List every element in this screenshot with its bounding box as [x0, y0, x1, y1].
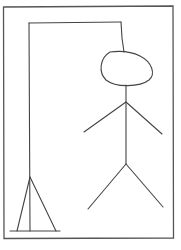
left-arm [84, 102, 126, 132]
gallows-base-left-strut [17, 177, 30, 231]
hangman-svg [0, 0, 181, 250]
left-leg [88, 164, 126, 209]
head [101, 51, 152, 85]
right-leg [126, 164, 163, 207]
right-arm [126, 102, 162, 134]
gallows-post [29, 23, 30, 231]
gallows-base-right-strut [30, 177, 56, 231]
hangman-drawing [0, 0, 181, 250]
rope [121, 22, 124, 52]
gallows-beam [29, 22, 121, 23]
